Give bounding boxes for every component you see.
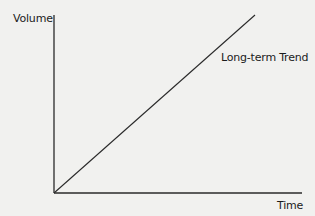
trend-line: [54, 15, 255, 193]
y-axis-label: Volume: [13, 12, 53, 25]
x-axis-label: Time: [277, 199, 303, 212]
trend-diagram: [0, 0, 315, 216]
trend-label: Long-term Trend: [221, 51, 308, 64]
